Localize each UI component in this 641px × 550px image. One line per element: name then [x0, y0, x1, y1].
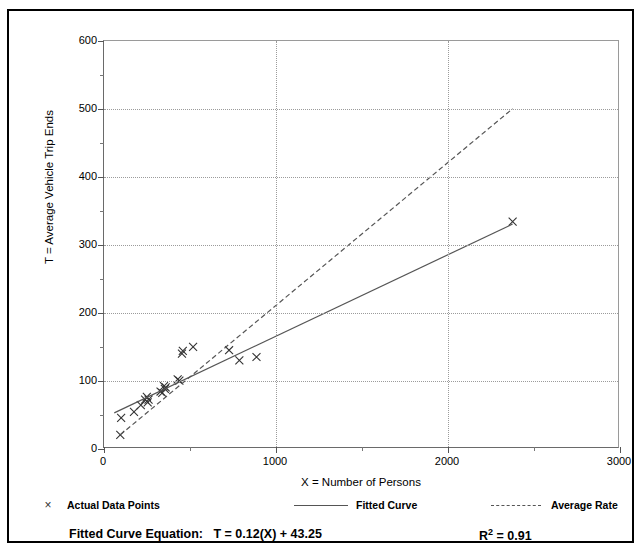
y-axis-title: T = Average Vehicle Trip Ends: [43, 87, 55, 287]
chart-page: T = Average Vehicle Trip Ends 0100200300…: [0, 0, 641, 550]
gridline-horizontal: [104, 245, 618, 246]
y-axis-tick: [98, 381, 104, 382]
legend-entry: ×Actual Data Points: [39, 495, 160, 515]
top-cut-caption: [0, 0, 641, 9]
x-axis-tick: [620, 447, 621, 453]
y-axis-tick-label: 600: [79, 34, 97, 46]
x-axis-tick: [448, 447, 449, 453]
x-marker-icon: ×: [39, 498, 57, 512]
y-axis-tick: [98, 41, 104, 42]
fitted-curve-line: [114, 224, 512, 413]
data-point-marker: [253, 353, 261, 361]
legend-label: Average Rate: [551, 499, 618, 511]
chart-frame: T = Average Vehicle Trip Ends 0100200300…: [7, 9, 634, 543]
y-axis-minor-tick: [100, 415, 104, 416]
y-axis-tick-label: 500: [79, 102, 97, 114]
y-axis-tick: [98, 245, 104, 246]
gridline-horizontal: [104, 177, 618, 178]
gridline-vertical: [448, 41, 449, 447]
data-point-marker: [130, 408, 138, 416]
plot-area: [103, 40, 619, 448]
x-axis-tick: [276, 447, 277, 453]
y-axis-minor-tick: [100, 279, 104, 280]
x-axis-minor-tick: [190, 447, 191, 451]
dashed-line-icon: [489, 498, 543, 512]
y-tick-label-group: 0100200300400500600: [63, 40, 97, 448]
gridline-vertical: [276, 41, 277, 447]
legend-label: Fitted Curve: [356, 499, 417, 511]
y-axis-tick-label: 0: [91, 442, 97, 454]
equation-row: Fitted Curve Equation: T = 0.12(X) + 43.…: [39, 523, 619, 549]
legend-entry: Average Rate: [489, 495, 618, 515]
chart-legend: ×Actual Data PointsFitted CurveAverage R…: [39, 495, 619, 515]
data-layer: [104, 41, 618, 447]
y-axis-minor-tick: [100, 143, 104, 144]
y-axis-minor-tick: [100, 347, 104, 348]
x-axis-minor-tick: [362, 447, 363, 451]
gridline-horizontal: [104, 313, 618, 314]
y-axis-tick-label: 100: [79, 374, 97, 386]
y-axis-tick-label: 300: [79, 238, 97, 250]
r2-exponent: 2: [488, 527, 493, 537]
y-axis-minor-tick: [100, 75, 104, 76]
x-axis-minor-tick: [534, 447, 535, 451]
gridline-horizontal: [104, 109, 618, 110]
data-point-marker: [117, 414, 125, 422]
data-point-marker: [179, 347, 187, 355]
x-axis-title: X = Number of Persons: [103, 476, 619, 488]
x-axis-tick-label: 3000: [607, 455, 631, 467]
data-point-marker: [235, 356, 243, 364]
y-axis-tick: [98, 109, 104, 110]
x-axis-tick-label: 2000: [435, 455, 459, 467]
y-axis-tick-label: 400: [79, 170, 97, 182]
r2-number: = 0.91: [497, 529, 532, 543]
equation-value: T = 0.12(X) + 43.25: [213, 527, 321, 541]
y-axis-tick: [98, 313, 104, 314]
y-axis-tick: [98, 177, 104, 178]
data-point-marker: [137, 401, 145, 409]
y-axis-tick-label: 200: [79, 306, 97, 318]
r-squared-value: R2 = 0.91: [479, 527, 532, 543]
legend-entry: Fitted Curve: [294, 495, 417, 515]
y-axis-minor-tick: [100, 211, 104, 212]
gridline-horizontal: [104, 381, 618, 382]
fitted-curve-equation: Fitted Curve Equation: T = 0.12(X) + 43.…: [69, 527, 322, 541]
average-rate-line: [120, 109, 512, 435]
solid-line-icon: [294, 498, 348, 512]
data-point-marker: [189, 343, 197, 351]
x-axis-tick-label: 0: [100, 455, 106, 467]
legend-label: Actual Data Points: [67, 499, 160, 511]
equation-label: Fitted Curve Equation:: [69, 527, 203, 541]
x-tick-label-group: 0100020003000: [103, 455, 619, 471]
x-axis-tick: [104, 447, 105, 453]
r2-label: R: [479, 529, 488, 543]
x-axis-tick-label: 1000: [263, 455, 287, 467]
data-point-marker: [144, 398, 152, 406]
data-point-marker: [178, 350, 186, 358]
